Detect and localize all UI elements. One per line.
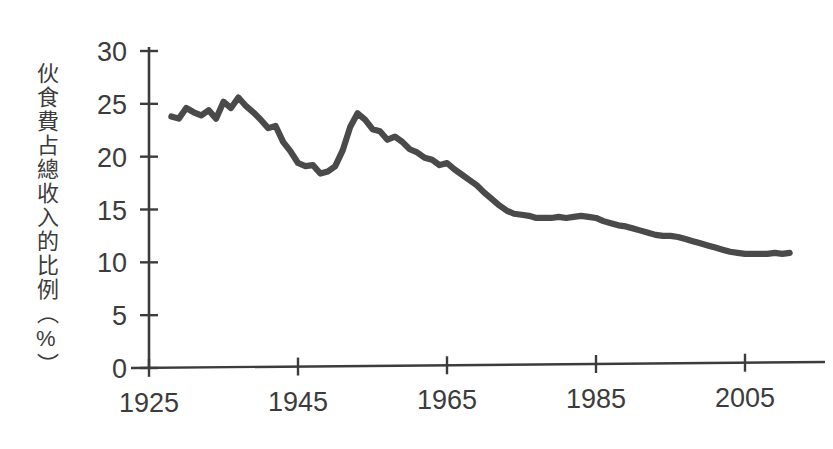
y-axis-tick-label: 25	[97, 90, 127, 120]
y-axis-tick-label: 10	[97, 248, 127, 278]
y-axis-label: 伙食費占總收入的比例（%）	[22, 62, 68, 362]
x-axis-line	[131, 362, 825, 368]
x-axis-tick-label: 1965	[417, 385, 477, 415]
y-axis-label-text: 伙食費占總收入的比例（%）	[33, 62, 58, 377]
y-axis-tick-label: 5	[112, 301, 127, 331]
x-axis: 19251945196519852005	[119, 354, 825, 418]
data-line	[171, 97, 789, 253]
y-axis-tick-label: 20	[97, 143, 127, 173]
x-axis-tick-label: 1985	[566, 384, 626, 414]
x-axis-tick-label: 1925	[119, 388, 179, 418]
y-axis-tick-label: 15	[97, 196, 127, 226]
data-series-group	[171, 97, 789, 253]
chart-figure: 伙食費占總收入的比例（%） 051015202530 1925194519651…	[0, 0, 833, 449]
y-axis-tick-label: 0	[112, 354, 127, 384]
y-axis-tick-label: 30	[97, 37, 127, 67]
line-chart-plot: 051015202530 19251945196519852005	[0, 0, 833, 449]
y-axis: 051015202530	[97, 37, 158, 384]
x-axis-tick-label: 2005	[715, 383, 775, 413]
x-axis-tick-label: 1945	[268, 387, 328, 417]
